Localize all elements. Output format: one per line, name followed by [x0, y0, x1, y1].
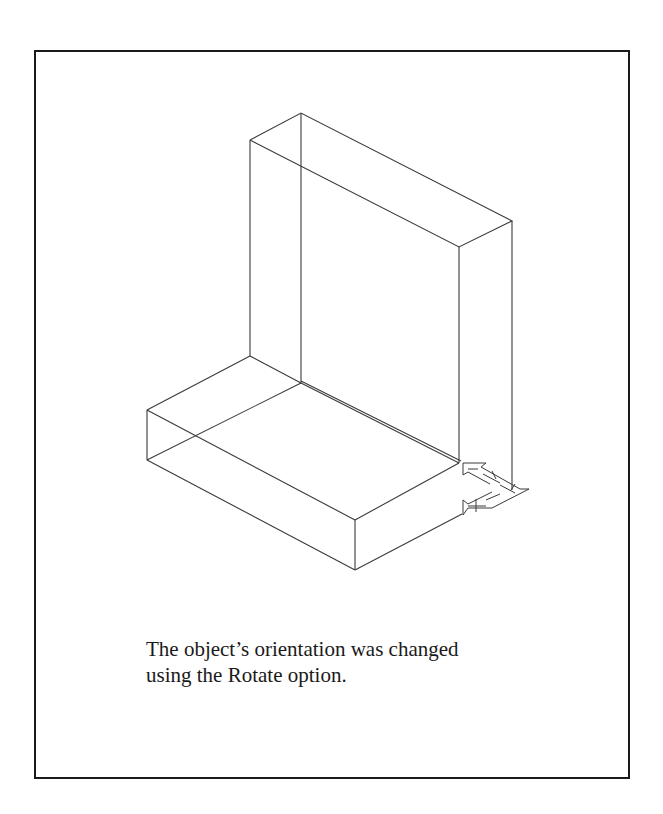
- caption-line-1: The object’s orientation was changed: [146, 636, 566, 662]
- wireframe-object: [147, 113, 512, 570]
- caption-line-2: using the Rotate option.: [146, 662, 566, 688]
- base-block: [147, 356, 462, 570]
- upright-slab: [250, 113, 512, 490]
- ucs-icon: [463, 463, 529, 515]
- isometric-drawing: [0, 0, 663, 814]
- figure-caption: The object’s orientation was changed usi…: [146, 636, 566, 688]
